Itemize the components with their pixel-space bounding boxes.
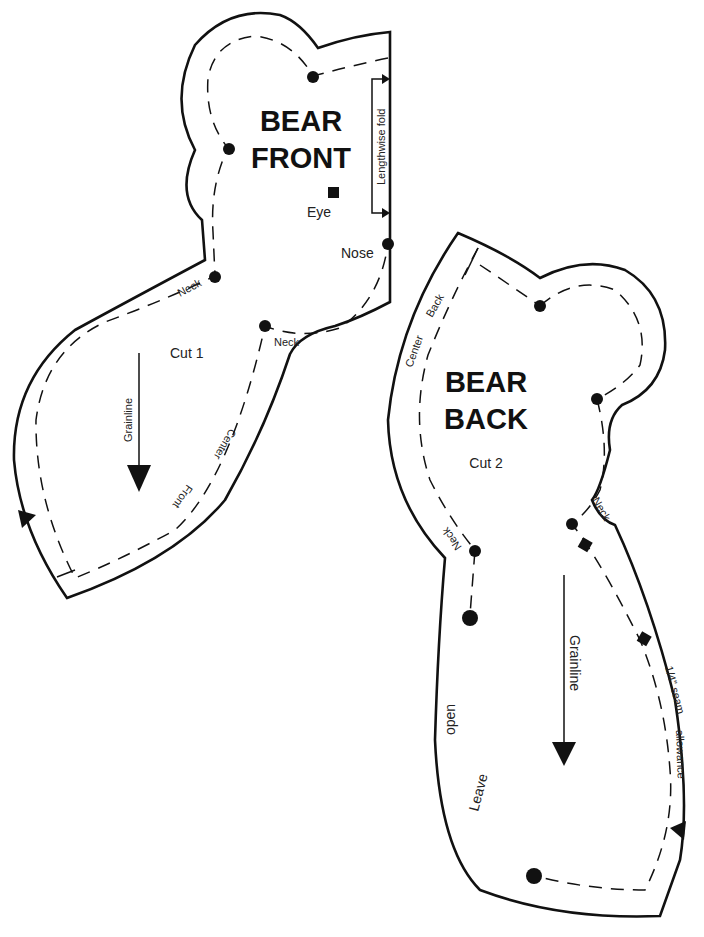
open-label: open <box>442 704 458 735</box>
ear-dot-marker <box>307 71 319 83</box>
match-notch-icon <box>18 510 36 528</box>
opening-dot-marker <box>526 868 542 884</box>
square-marker <box>637 631 652 646</box>
eye-label: Eye <box>307 204 331 220</box>
back-title-line1: BEAR <box>445 366 527 398</box>
opening-dot-marker <box>462 610 478 626</box>
back-cut-label: Cut 2 <box>469 455 503 471</box>
nose-dot-marker <box>382 238 394 250</box>
ear-dot-marker <box>534 300 546 312</box>
ear-dot-marker <box>591 393 603 405</box>
fold-label: Lengthwise fold <box>375 109 387 185</box>
back-seam-corner-tick <box>465 248 478 275</box>
front-grainline-label: Grainline <box>122 398 134 442</box>
square-marker <box>578 537 593 552</box>
front-center-label: Center <box>212 427 239 462</box>
ear-dot-marker <box>223 143 235 155</box>
back-neck-label-right: Neck <box>590 495 613 523</box>
leave-label: Leave <box>465 772 490 813</box>
neck-dot-marker <box>209 271 221 283</box>
grainline-arrowhead-icon <box>127 465 151 492</box>
back-cutting-line <box>388 233 684 916</box>
front-title-line1: BEAR <box>260 105 342 137</box>
front-neck-label-left: Neck <box>175 276 203 299</box>
bear-front-piece: BEAR FRONT Eye Nose Cut 1 Lengthwise fol… <box>14 13 394 598</box>
seam-allowance-label: 1/4" seam <box>663 664 687 715</box>
front-front-label: Front <box>171 483 196 511</box>
eye-square-marker <box>328 187 339 198</box>
grainline-arrowhead-icon <box>552 742 576 766</box>
seam-corner-tick <box>57 570 75 577</box>
front-neck-label-right: Neck <box>274 336 300 348</box>
match-notch-icon <box>670 821 686 840</box>
neck-dot-marker <box>259 320 271 332</box>
nose-label: Nose <box>341 245 374 261</box>
front-title-line2: FRONT <box>251 142 351 174</box>
front-cutting-line <box>14 13 390 598</box>
neck-dot-marker <box>469 545 481 557</box>
sewing-pattern-canvas: BEAR FRONT Eye Nose Cut 1 Lengthwise fol… <box>0 0 704 937</box>
bear-back-piece: BEAR BACK Cut 2 Center Back Neck Neck Gr… <box>388 233 688 916</box>
back-grainline-label: Grainline <box>567 635 583 691</box>
back-title-line2: BACK <box>444 403 528 435</box>
front-cut-label: Cut 1 <box>170 345 204 361</box>
back-neck-label-left: Neck <box>439 525 463 553</box>
back-back-label: Back <box>423 291 446 319</box>
neck-dot-marker <box>566 518 578 530</box>
allowance-label: allowance <box>674 730 688 779</box>
